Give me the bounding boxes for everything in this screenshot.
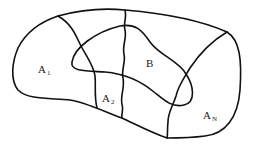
- region-label-a2-main: A: [102, 92, 110, 104]
- event-label-b-main: B: [146, 57, 153, 69]
- event-b-boundary: [72, 25, 193, 105]
- region-label-a1: A1: [38, 64, 50, 75]
- event-label-b: B: [146, 58, 153, 69]
- region-label-a1-main: A: [38, 63, 46, 75]
- region-label-a2: A2: [102, 93, 114, 104]
- region-label-a2-sub: 2: [111, 98, 115, 106]
- partition-line-a1-a2: [58, 16, 97, 108]
- region-label-a1-sub: 1: [47, 69, 51, 77]
- region-label-an-sub: N: [212, 115, 217, 123]
- region-label-an-main: A: [203, 109, 211, 121]
- partition-line-an: [167, 32, 227, 138]
- partition-diagram: [0, 0, 266, 152]
- region-label-an: AN: [203, 110, 217, 121]
